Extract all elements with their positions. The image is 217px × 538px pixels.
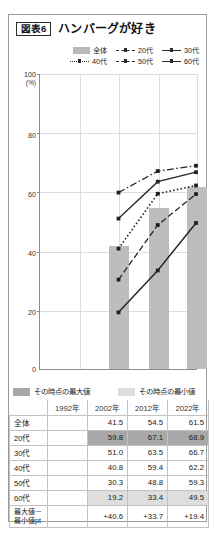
table-row: 50代30.348.859.3 xyxy=(10,475,209,490)
table-cell: 19.2 xyxy=(88,490,128,505)
figure-header: 図表6 ハンバーグが好き xyxy=(9,15,208,43)
min-swatch-icon xyxy=(118,388,135,396)
table-cell: 49.5 xyxy=(168,490,209,505)
marker-60代 xyxy=(117,310,121,314)
table-cell: 59.8 xyxy=(88,430,128,445)
table-cell xyxy=(48,445,88,460)
y-axis-max-value: 100 xyxy=(24,70,36,79)
table-cell: 51.0 xyxy=(88,445,128,460)
figure-number-badge: 図表6 xyxy=(16,22,51,37)
marker-50代 xyxy=(194,192,198,196)
legend-label: 全体 xyxy=(93,47,107,54)
table-cell: 41.5 xyxy=(88,415,128,430)
figure-page: 図表6 ハンバーグが好き 全体 20代 30代 xyxy=(0,0,217,538)
y-tick-60: 60 xyxy=(12,191,36,198)
max-legend-label: その時点の最大値 xyxy=(34,388,90,395)
solid-thick-line-swatch-icon xyxy=(162,58,181,65)
marker-60代 xyxy=(156,269,160,273)
table-row: 30代51.063.566.7 xyxy=(10,445,209,460)
marker-50代 xyxy=(156,223,160,227)
table-cell xyxy=(48,460,88,475)
table-row-label: 20代 xyxy=(10,430,48,445)
y-tick-80: 80 xyxy=(12,132,36,139)
marker-20代 xyxy=(194,164,198,168)
table-row-label: 60代 xyxy=(10,490,48,505)
legend-item-50dai: 50代 xyxy=(116,58,153,65)
table-row-label: 40代 xyxy=(10,460,48,475)
legend-label: 40代 xyxy=(92,58,107,65)
legend-row-2: 40代 50代 60代 xyxy=(9,56,208,67)
table-row-label: 50代 xyxy=(10,475,48,490)
dash-dot-line-swatch-icon xyxy=(116,47,135,54)
table-cell: 59.3 xyxy=(168,475,209,490)
page-title: ハンバーグが好き xyxy=(58,23,156,35)
table-cell: +19.4 xyxy=(168,505,209,527)
marker-20代 xyxy=(117,191,121,195)
dotted-line-swatch-icon xyxy=(70,58,89,65)
legend-item-30dai: 30代 xyxy=(162,47,199,54)
table-row: 最大値－最小値pt+40.6+33.7+19.4 xyxy=(10,505,209,527)
table-cell: 48.8 xyxy=(128,475,168,490)
table-row-label: 30代 xyxy=(10,445,48,460)
legend-item-20dai: 20代 xyxy=(116,47,153,54)
minmax-legend: その時点の最大値 その時点の最小値 xyxy=(9,385,208,399)
table-cell: 67.1 xyxy=(128,430,168,445)
line-series-group xyxy=(40,74,197,369)
table-row: 20代59.867.168.9 xyxy=(10,430,209,445)
table-cell xyxy=(48,475,88,490)
table-row: 全体41.554.561.5 xyxy=(10,415,209,430)
data-table: 1992年2002年2012年2022年 全体41.554.561.520代59… xyxy=(9,400,209,528)
table-col-header-2002年: 2002年 xyxy=(88,400,128,415)
table-row: 60代19.233.449.5 xyxy=(10,490,209,505)
marker-30代 xyxy=(194,170,198,174)
bar-swatch-icon xyxy=(73,47,90,54)
legend-label: 30代 xyxy=(184,47,199,54)
table-cell xyxy=(48,430,88,445)
table-col-header-2022年: 2022年 xyxy=(168,400,209,415)
max-swatch-icon xyxy=(13,388,30,396)
table-cell: +40.6 xyxy=(88,505,128,527)
y-tick-20: 20 xyxy=(12,309,36,316)
table-cell: 66.7 xyxy=(168,445,209,460)
marker-30代 xyxy=(156,180,160,184)
table-cell: 61.5 xyxy=(168,415,209,430)
table-cell: 63.5 xyxy=(128,445,168,460)
y-axis-top-label: 100 (%) xyxy=(12,71,36,87)
table-cell: 33.4 xyxy=(128,490,168,505)
table-col-header-2012年: 2012年 xyxy=(128,400,168,415)
table-cell xyxy=(48,490,88,505)
table-cell: +33.7 xyxy=(128,505,168,527)
marker-60代 xyxy=(194,221,198,225)
table-header-row: 1992年2002年2012年2022年 xyxy=(10,400,209,415)
table-cell: 62.2 xyxy=(168,460,209,475)
legend-item-40dai: 40代 xyxy=(70,58,107,65)
min-legend-label: その時点の最小値 xyxy=(139,388,195,395)
legend-label: 20代 xyxy=(138,47,153,54)
table-cell: 30.3 xyxy=(88,475,128,490)
solid-line-swatch-icon xyxy=(162,47,181,54)
y-axis-unit: (%) xyxy=(12,79,36,87)
chart-area: 100 (%) 80 60 40 20 0 xyxy=(9,69,208,387)
table-cell xyxy=(48,505,88,527)
plot-canvas xyxy=(39,74,197,370)
table-row-label: 全体 xyxy=(10,415,48,430)
table-cell: 59.4 xyxy=(128,460,168,475)
marker-40代 xyxy=(194,184,198,188)
marker-40代 xyxy=(117,247,121,251)
table-cell: 68.9 xyxy=(168,430,209,445)
marker-30代 xyxy=(117,217,121,221)
table-cell: 54.5 xyxy=(128,415,168,430)
table-cell xyxy=(48,415,88,430)
table-col-header-1992年: 1992年 xyxy=(48,400,88,415)
table-body: 全体41.554.561.520代59.867.168.930代51.063.5… xyxy=(10,415,209,527)
legend-item-zentai: 全体 xyxy=(73,47,107,54)
line-60代 xyxy=(119,223,197,312)
legend-item-min: その時点の最小値 xyxy=(118,388,195,396)
legend-label: 60代 xyxy=(184,58,199,65)
marker-40代 xyxy=(156,192,160,196)
table-row: 40代40.859.462.2 xyxy=(10,460,209,475)
series-legend: 全体 20代 30代 40代 50代 xyxy=(9,45,208,67)
dashed-line-swatch-icon xyxy=(116,58,135,65)
legend-label: 50代 xyxy=(138,58,153,65)
y-tick-40: 40 xyxy=(12,250,36,257)
